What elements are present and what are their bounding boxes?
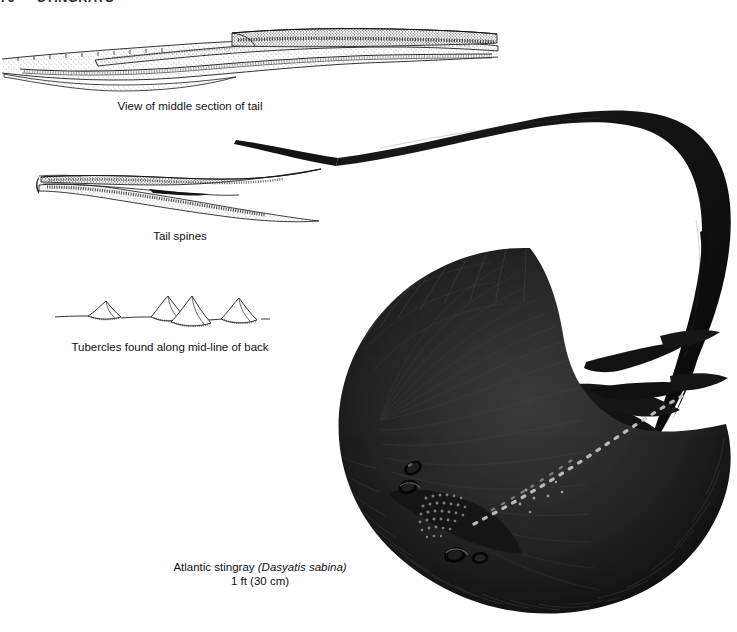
page-folio: 76 xyxy=(0,0,15,5)
caption-atlantic-stingray: Atlantic stingray (Dasyatis sabina) 1 ft… xyxy=(60,560,460,588)
stingray-pelvic-fins xyxy=(584,330,728,400)
figure-tail-middle-section xyxy=(0,13,500,97)
running-head: 76STINGRAYS xyxy=(0,0,300,7)
tail-upper-spine xyxy=(232,29,497,47)
species-scientific-name: (Dasyatis sabina) xyxy=(258,561,347,573)
running-head-section: STINGRAYS xyxy=(37,0,114,5)
tubercle-item xyxy=(88,301,121,319)
figure-atlantic-stingray xyxy=(230,100,737,620)
species-size: 1 ft (30 cm) xyxy=(60,574,460,588)
stingray-disc xyxy=(230,100,737,620)
book-page: 76STINGRAYS xyxy=(0,0,737,632)
species-common-name: Atlantic stingray xyxy=(173,561,257,573)
